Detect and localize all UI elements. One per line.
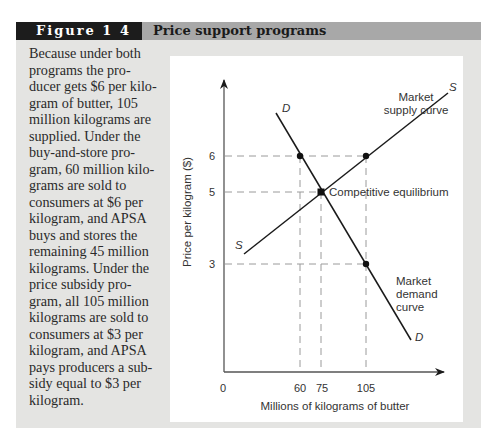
equilibrium-label: Competitive equilibrium bbox=[329, 186, 449, 198]
y-tick-5: 5 bbox=[209, 186, 215, 198]
point-105-3 bbox=[363, 261, 369, 267]
supply-curve-label-line1: Market bbox=[398, 91, 434, 103]
x-tick-0: 0 bbox=[220, 382, 226, 394]
x-tick-105: 105 bbox=[357, 382, 375, 394]
x-tick-60: 60 bbox=[294, 382, 306, 394]
x-tick-75: 75 bbox=[316, 382, 328, 394]
supply-label-top: S bbox=[449, 81, 457, 93]
demand-curve bbox=[276, 113, 411, 340]
demand-curve-label-line2: demand bbox=[396, 288, 438, 300]
equilibrium-point bbox=[318, 189, 325, 196]
y-tick-3: 3 bbox=[209, 258, 215, 270]
demand-curve-label-line3: curve bbox=[396, 301, 424, 313]
x-axis-label: Millions of kilograms of butter bbox=[261, 400, 410, 412]
demand-label-top: D bbox=[282, 102, 290, 114]
supply-demand-chart: 6 5 3 0 60 75 105 Price per kilogram ($)… bbox=[0, 0, 495, 432]
y-tick-6: 6 bbox=[209, 150, 215, 162]
demand-curve-label-line1: Market bbox=[396, 275, 432, 287]
point-60-6 bbox=[297, 153, 303, 159]
supply-label-bottom: S bbox=[235, 239, 243, 251]
y-axis-label: Price per kilogram ($) bbox=[181, 157, 193, 267]
supply-curve-label-line2: supply curve bbox=[384, 104, 449, 116]
demand-label-bottom: D bbox=[415, 331, 423, 343]
point-105-6 bbox=[363, 153, 369, 159]
